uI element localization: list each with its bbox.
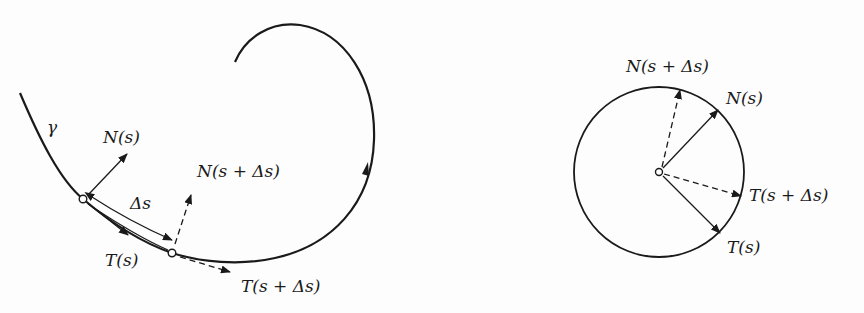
circle-label-tangent-s: T(s) bbox=[727, 239, 760, 256]
label-normal-s-ds: N(s + Δs) bbox=[197, 163, 280, 180]
curve-gamma bbox=[20, 24, 374, 262]
normal-s-ds-vector bbox=[175, 195, 191, 244]
circle-normal-s-vector bbox=[663, 110, 718, 168]
direction-arrow-icon bbox=[362, 162, 369, 176]
delta-s-bracket-line bbox=[88, 204, 168, 250]
circle-tangent-s-ds-vector bbox=[664, 174, 741, 196]
circle-normal-s-ds-vector bbox=[662, 90, 680, 167]
circle-label-normal-s-ds: N(s + Δs) bbox=[626, 58, 709, 75]
circle-tangent-s-vector bbox=[663, 176, 720, 233]
circle-label-normal-s: N(s) bbox=[726, 90, 763, 107]
normal-s-vector bbox=[88, 154, 127, 195]
circle-center-point bbox=[656, 169, 663, 176]
tangent-s-vector bbox=[90, 205, 128, 235]
label-tangent-s-ds: T(s + Δs) bbox=[241, 278, 320, 295]
label-delta-s: Δs bbox=[130, 195, 151, 212]
circle-label-tangent-s-ds: T(s + Δs) bbox=[749, 187, 828, 204]
point-s-ds bbox=[168, 249, 176, 257]
curve-gamma-label: γ bbox=[47, 119, 57, 136]
label-tangent-s: T(s) bbox=[105, 252, 138, 269]
label-normal-s: N(s) bbox=[103, 129, 140, 146]
point-s bbox=[79, 195, 87, 203]
frenet-frame-diagram: γ N(s) N(s + Δs) Δs T(s) T(s + Δs) N(s +… bbox=[0, 0, 864, 313]
